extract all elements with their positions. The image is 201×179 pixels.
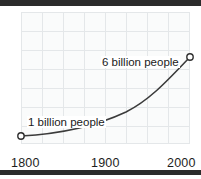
chart-plot-area: 1 billion people 6 billion people 1800 1… [0,6,201,170]
x-axis-tick-1800: 1800 [11,156,40,170]
end-marker [187,54,193,60]
x-axis-tick-2000: 2000 [167,156,196,170]
x-axis-tick-1900: 1900 [91,156,120,170]
population-growth-figure: 1 billion people 6 billion people 1800 1… [0,0,201,179]
annotation-6-billion: 6 billion people [101,56,180,68]
bottom-rule-bar [0,170,201,175]
population-line-chart [0,6,201,170]
start-marker [18,133,24,139]
annotation-1-billion: 1 billion people [27,116,106,128]
